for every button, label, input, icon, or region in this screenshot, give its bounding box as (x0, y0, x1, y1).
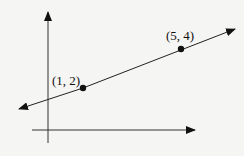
line-forward (83, 29, 235, 88)
diagram: (1, 2) (5, 4) (0, 0, 244, 156)
label-point-1-2: (1, 2) (52, 73, 80, 88)
coordinate-plane: (1, 2) (5, 4) (0, 0, 244, 156)
point-5-4 (178, 46, 184, 52)
line-backward (19, 88, 83, 109)
point-1-2 (80, 85, 86, 91)
label-point-5-4: (5, 4) (166, 28, 194, 43)
